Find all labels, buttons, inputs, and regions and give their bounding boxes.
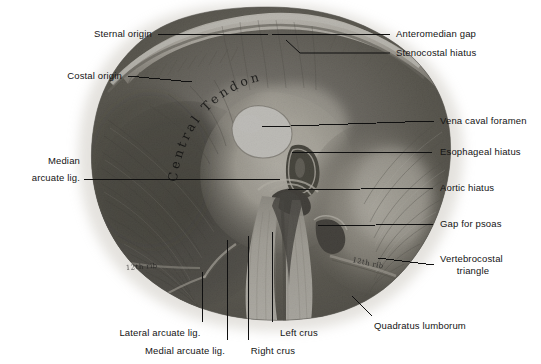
- label-quadratus-lumborum: Quadratus lumborum: [374, 320, 466, 332]
- label-sternal-origin: Sternal origin: [0, 28, 152, 40]
- label-costal-origin: Costal origin: [0, 70, 122, 82]
- label-esophageal-hiatus: Esophageal hiatus: [440, 146, 521, 158]
- label-anteromedian-gap: Anteromedian gap: [396, 28, 476, 40]
- label-vena-caval-foramen: Vena caval foramen: [440, 115, 527, 127]
- label-gap-for-psoas: Gap for psoas: [440, 218, 502, 230]
- label-median-arcuate-lig-line2: arcuate lig.: [0, 172, 80, 184]
- label-medial-arcuate-lig: Medial arcuate lig.: [135, 345, 235, 357]
- label-right-crus: Right crus: [240, 345, 306, 357]
- label-stenocostal-hiatus: Stenocostal hiatus: [396, 47, 476, 59]
- label-vertebrocostal-triangle-line1: Vertebrocostal: [440, 253, 503, 265]
- label-lateral-arcuate-lig: Lateral arcuate lig.: [110, 327, 210, 339]
- label-vertebrocostal-triangle-line2: triangle: [440, 265, 506, 277]
- label-median-arcuate-lig-line1: Median: [0, 155, 80, 167]
- label-left-crus: Left crus: [266, 327, 332, 339]
- label-aortic-hiatus: Aortic hiatus: [440, 182, 494, 194]
- anatomical-figure-plate: Central Tendon 12th rib 12th rib: [0, 0, 541, 364]
